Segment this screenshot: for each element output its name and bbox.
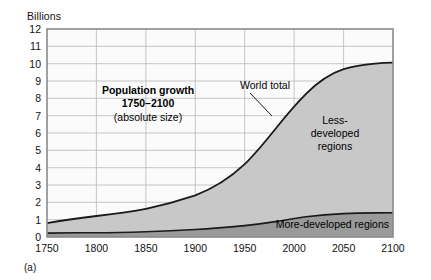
y-axis-unit-label: Billions <box>27 10 61 22</box>
annotation-title-line2: 1750–2100 <box>122 97 175 109</box>
annotation-less-developed-line2: developed <box>311 127 360 139</box>
ytick-12: 12 <box>29 23 41 35</box>
ytick-9: 9 <box>35 75 41 87</box>
ytick-7: 7 <box>35 110 41 122</box>
y-axis-tick-labels: 12 11 10 9 8 7 6 5 4 3 2 1 0 <box>29 23 41 243</box>
population-growth-figure: Billions <box>0 0 431 280</box>
ytick-4: 4 <box>35 162 41 174</box>
xtick-1950: 1950 <box>233 242 257 254</box>
annotation-less-developed-line3: regions <box>318 140 352 152</box>
annotation-more-developed: More-developed regions <box>276 218 389 230</box>
xtick-2050: 2050 <box>332 242 356 254</box>
ytick-10: 10 <box>29 58 41 70</box>
annotation-title-line3: (absolute size) <box>114 111 182 123</box>
panel-letter: (a) <box>24 262 36 273</box>
ytick-6: 6 <box>35 127 41 139</box>
annotation-title-line1: Population growth <box>102 84 194 96</box>
xtick-1900: 1900 <box>184 242 208 254</box>
annotation-world-total-label: World total <box>240 79 290 91</box>
ytick-3: 3 <box>35 179 41 191</box>
ytick-11: 11 <box>30 40 41 52</box>
xtick-2100: 2100 <box>381 242 405 254</box>
x-axis-tick-labels: 1750 1800 1850 1900 1950 2000 2050 2100 <box>35 242 405 254</box>
ytick-8: 8 <box>35 92 41 104</box>
chart-svg: 12 11 10 9 8 7 6 5 4 3 2 1 0 1750 1800 1… <box>0 0 431 280</box>
xtick-1750: 1750 <box>35 242 59 254</box>
annotation-less-developed-line1: Less- <box>322 114 348 126</box>
xtick-2000: 2000 <box>282 242 306 254</box>
xtick-1850: 1850 <box>134 242 158 254</box>
ytick-2: 2 <box>35 196 41 208</box>
ytick-1: 1 <box>35 214 41 226</box>
xtick-1800: 1800 <box>85 242 109 254</box>
annotation-more-developed-label: More-developed regions <box>276 218 389 230</box>
ytick-5: 5 <box>35 144 41 156</box>
